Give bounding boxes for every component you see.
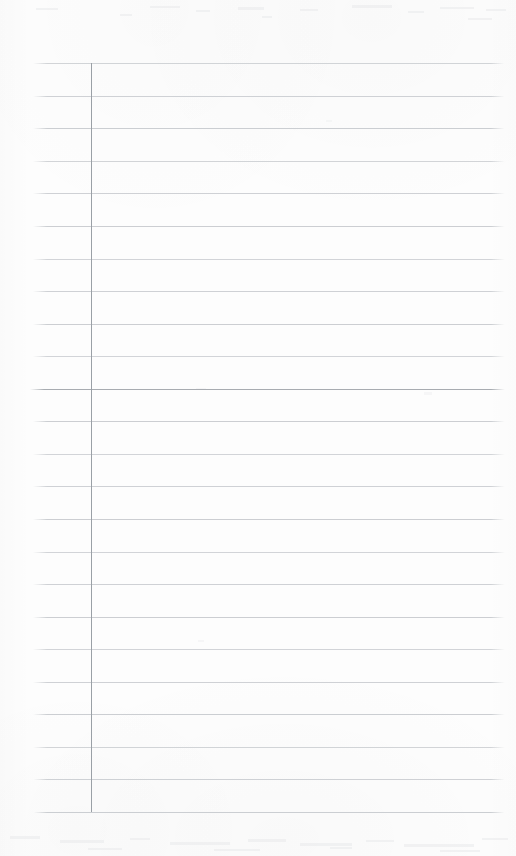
ruled-line [33,649,505,650]
margin-rule-vertical [91,63,92,812]
ruled-line [33,96,505,97]
ruled-line [33,617,505,618]
notebook-page [0,0,516,856]
ruled-line [33,63,505,64]
ruled-line [33,552,505,553]
ruled-line [33,486,505,487]
ruled-line [33,454,505,455]
ruled-line [33,356,505,357]
ruled-line [33,682,505,683]
ruled-line [33,714,505,715]
ruled-line [30,389,505,390]
ruled-line [33,747,505,748]
ruled-line [33,291,505,292]
ruled-line [33,779,505,780]
ruled-line [33,259,505,260]
ruled-line [33,193,505,194]
ruled-line [33,812,505,813]
ruled-line [33,128,505,129]
ruled-line [33,519,505,520]
ruled-line [33,421,505,422]
ruled-line [33,226,505,227]
ruled-line [33,161,505,162]
ruled-line [33,324,505,325]
ruled-line [33,584,505,585]
